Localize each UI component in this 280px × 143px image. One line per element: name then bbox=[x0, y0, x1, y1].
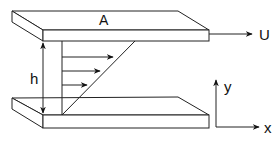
y-axis-label: y bbox=[224, 78, 232, 95]
velocity-label: U bbox=[259, 26, 270, 43]
top-plate-label: A bbox=[99, 12, 109, 28]
top-plate: A bbox=[12, 11, 209, 41]
gap-height-label: h bbox=[30, 70, 38, 87]
coordinate-axes: y x bbox=[216, 78, 272, 136]
x-axis-label: x bbox=[264, 119, 272, 136]
plate-velocity-indicator: U bbox=[209, 26, 270, 43]
bottom-plate bbox=[12, 97, 209, 128]
couette-flow-diagram: h A U y x bbox=[0, 0, 280, 143]
